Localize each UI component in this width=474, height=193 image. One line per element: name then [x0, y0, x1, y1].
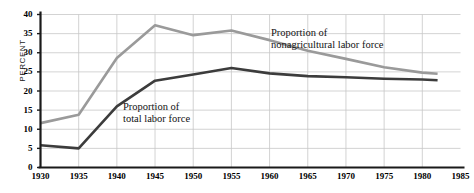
annotation-nonagricultural-line1: Proportion of [271, 27, 384, 39]
y-tick-label: 30 [11, 48, 33, 57]
y-tick-label: 35 [11, 29, 33, 38]
annotation-total-line1: Proportion of [123, 101, 190, 113]
x-tick-label: 1980 [402, 172, 442, 181]
series-line-total [41, 68, 438, 148]
annotation-nonagricultural: Proportion of nonagricultural labor forc… [271, 27, 384, 50]
y-tick-label: 20 [11, 87, 33, 96]
x-tick-label: 1975 [364, 172, 404, 181]
y-tick-label: 10 [11, 125, 33, 134]
x-tick-label: 1960 [250, 172, 290, 181]
annotation-nonagricultural-line2: nonagricultural labor force [271, 39, 384, 51]
x-tick-label: 1955 [211, 172, 251, 181]
annotation-total: Proportion of total labor force [123, 101, 190, 124]
y-tick-label: 25 [11, 67, 33, 76]
x-tick-label: 1950 [173, 172, 213, 181]
y-tick-label: 40 [11, 10, 33, 19]
y-tick-label: 15 [11, 106, 33, 115]
x-tick-label: 1930 [21, 172, 61, 181]
x-tick-label: 1965 [288, 172, 328, 181]
annotation-total-line2: total labor force [123, 113, 190, 125]
x-tick-label: 1985 [441, 172, 474, 181]
x-tick-label: 1935 [59, 172, 99, 181]
y-tick-label: 5 [11, 144, 33, 153]
x-tick-label: 1940 [97, 172, 137, 181]
x-tick-label: 1970 [326, 172, 366, 181]
x-tick-label: 1945 [135, 172, 175, 181]
